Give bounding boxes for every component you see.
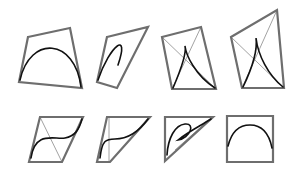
panel-loop [165,117,213,161]
panel-arch-square [227,116,273,162]
control-polygon [165,117,213,161]
bezier-curve [100,119,148,158]
control-polygon [29,117,83,162]
control-polygon [19,28,82,88]
panel-cusp-left [162,27,216,89]
bezier-curve [228,125,272,148]
control-polygon [97,27,148,88]
panel-inflection-flat [97,117,150,162]
panel-arch-narrow [97,27,148,88]
control-polygon [97,117,150,162]
panel-arch-wide [19,28,82,88]
panel-inflection-s [29,117,83,162]
bezier-curve [20,48,81,87]
panels-group [19,10,284,162]
control-polygon [227,116,273,162]
panel-cusp-right [231,10,284,88]
bezier-curve [243,38,283,87]
bezier-diagram [0,0,297,174]
